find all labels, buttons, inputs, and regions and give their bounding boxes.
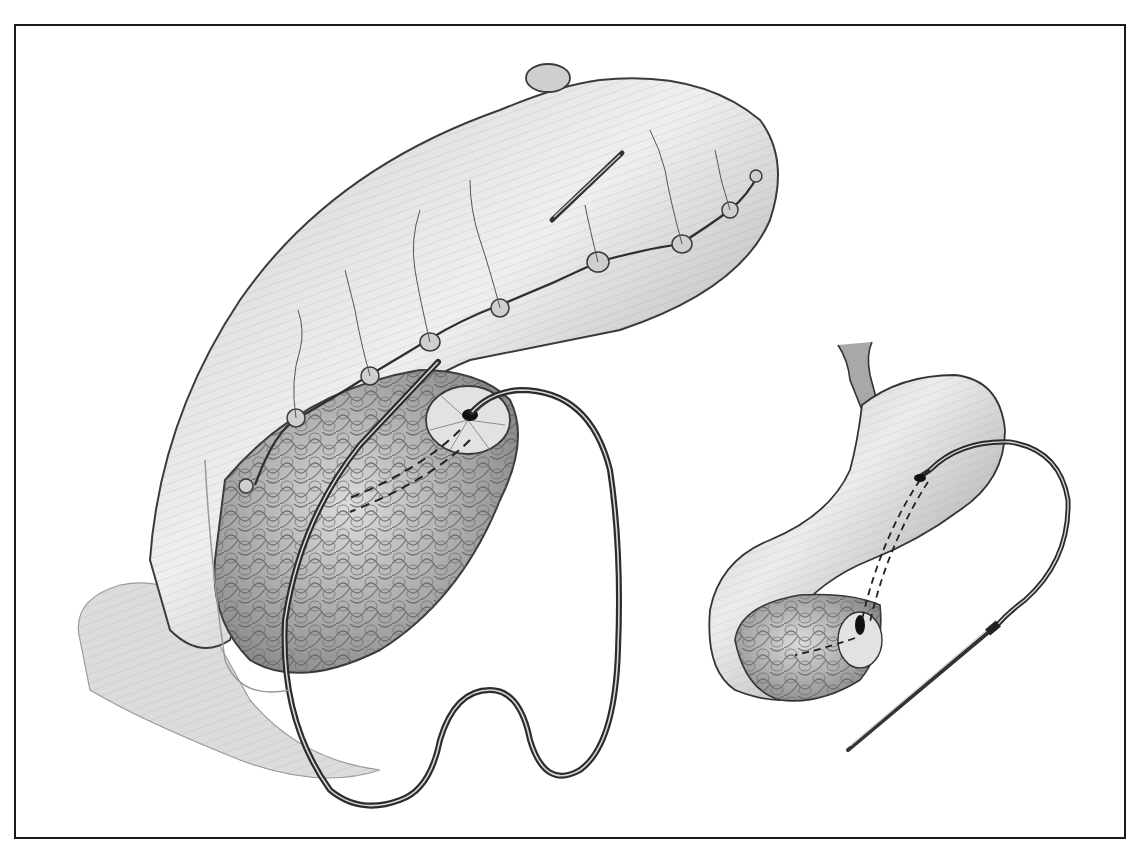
surgical-illustration [0, 0, 1141, 862]
inset-view [709, 342, 1068, 750]
duct-opening-inset [855, 615, 865, 635]
suture-knot [239, 479, 253, 493]
bowel-stump [526, 64, 570, 92]
main-view [78, 64, 778, 806]
suture-knot [750, 170, 762, 182]
